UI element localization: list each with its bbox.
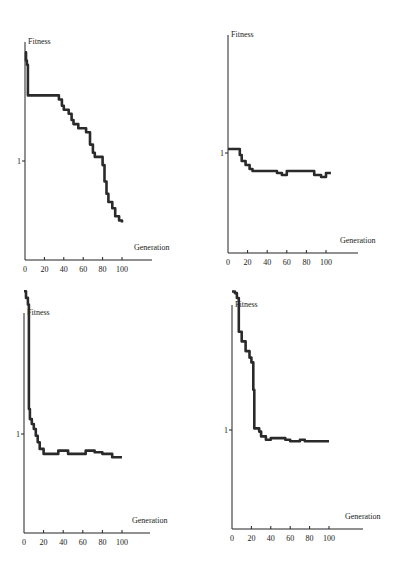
x-tick-label: 0 [226, 258, 230, 267]
x-tick-label: 100 [116, 265, 128, 274]
x-tick-label: 100 [116, 538, 128, 547]
fitness-curve [25, 52, 122, 222]
y-axis-label: Fitness [231, 30, 254, 39]
y-axis-label: Fitness [27, 308, 50, 317]
chart-panel-4: FitnessGeneration1020406080100 [200, 285, 397, 570]
x-axis-label: Generation [340, 236, 376, 245]
x-tick-label: 40 [60, 265, 68, 274]
chart-panel-3: FitnessGeneration1020406080100 [0, 285, 200, 570]
x-tick-label: 60 [79, 265, 87, 274]
x-tick-label: 100 [323, 534, 335, 543]
x-tick-label: 20 [244, 258, 252, 267]
x-tick-label: 0 [22, 538, 26, 547]
x-tick-label: 80 [98, 538, 106, 547]
x-axis-label: Generation [345, 512, 381, 521]
chart-panel-1: FitnessGeneration1020406080100 [0, 0, 200, 285]
y-tick-label: 1 [16, 430, 20, 439]
x-tick-label: 20 [40, 265, 48, 274]
fitness-curve [228, 149, 331, 177]
x-tick-label: 40 [263, 258, 271, 267]
x-tick-label: 60 [286, 534, 294, 543]
y-tick-label: 1 [224, 426, 228, 435]
x-tick-label: 0 [23, 265, 27, 274]
x-axis-label: Generation [132, 516, 168, 525]
y-tick-label: 1 [17, 157, 21, 166]
x-tick-label: 40 [267, 534, 275, 543]
y-tick-label: 1 [220, 149, 224, 158]
x-tick-label: 100 [320, 258, 332, 267]
x-tick-label: 20 [40, 538, 48, 547]
y-axis-label: Fitness [28, 37, 51, 46]
x-tick-label: 60 [79, 538, 87, 547]
chart-panel-2: FitnessGeneration1020406080100 [200, 0, 397, 285]
x-axis-label: Generation [134, 243, 170, 252]
fitness-curve [232, 292, 329, 442]
x-tick-label: 80 [302, 258, 310, 267]
x-tick-label: 80 [306, 534, 314, 543]
x-tick-label: 40 [59, 538, 67, 547]
x-tick-label: 60 [283, 258, 291, 267]
x-tick-label: 0 [230, 534, 234, 543]
x-tick-label: 20 [247, 534, 255, 543]
x-tick-label: 80 [99, 265, 107, 274]
